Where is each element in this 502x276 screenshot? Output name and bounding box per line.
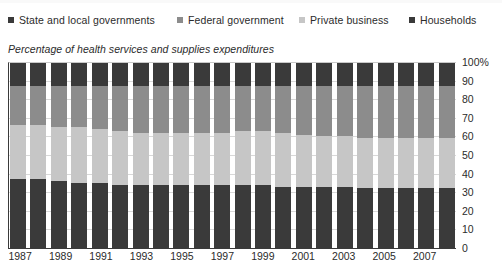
bar-segment-households — [112, 185, 128, 248]
bar-1990[interactable] — [71, 62, 87, 248]
bar-segment-private-business — [153, 133, 169, 185]
bar-1988[interactable] — [30, 62, 46, 248]
x-axis-line — [8, 248, 456, 249]
bar-1989[interactable] — [51, 62, 67, 248]
bar-segment-state-and-local-governments — [357, 62, 373, 86]
y-axis-tick-label: 100% — [462, 56, 489, 68]
y-axis-tick-label: 0 — [462, 242, 468, 254]
bar-segment-federal-government — [337, 86, 353, 136]
chart-legend: State and local governments Federal gove… — [0, 10, 502, 30]
bar-segment-state-and-local-governments — [153, 62, 169, 86]
bar-segment-private-business — [439, 138, 455, 188]
bar-segment-households — [275, 187, 291, 248]
bar-segment-private-business — [316, 136, 332, 186]
x-axis-tick-label-1995: 1995 — [170, 250, 193, 262]
bar-segment-state-and-local-governments — [194, 62, 210, 86]
square-marker-icon — [299, 17, 305, 23]
bar-segment-households — [255, 185, 271, 248]
x-axis-tick-label-2005: 2005 — [373, 250, 396, 262]
x-axis-tick-label-1997: 1997 — [211, 250, 234, 262]
bar-segment-federal-government — [316, 86, 332, 136]
bar-segment-federal-government — [275, 86, 291, 133]
bar-2007[interactable] — [418, 62, 434, 248]
bar-segment-state-and-local-governments — [418, 62, 434, 86]
bar-2001[interactable] — [296, 62, 312, 248]
bar-segment-federal-government — [418, 86, 434, 138]
bar-segment-private-business — [235, 131, 251, 185]
legend-item-label: Households — [420, 10, 476, 30]
bar-segment-households — [357, 188, 373, 248]
legend-item-private-business[interactable]: Private business — [299, 10, 389, 30]
bar-1991[interactable] — [92, 62, 108, 248]
bar-segment-private-business — [194, 133, 210, 185]
x-axis: 1987198919911993199519971999200120032005… — [8, 250, 456, 272]
bar-segment-households — [92, 183, 108, 248]
bar-segment-private-business — [214, 133, 230, 185]
bar-segment-state-and-local-governments — [92, 62, 108, 86]
y-axis-tick-label: 50 — [462, 149, 474, 161]
bar-segment-households — [173, 185, 189, 248]
bar-segment-private-business — [133, 133, 149, 185]
legend-item-federal-government[interactable]: Federal government — [177, 10, 284, 30]
bar-segment-federal-government — [112, 86, 128, 131]
bar-2005[interactable] — [378, 62, 394, 248]
bar-1995[interactable] — [173, 62, 189, 248]
bar-segment-private-business — [418, 138, 434, 188]
bar-segment-federal-government — [92, 86, 108, 129]
bar-1992[interactable] — [112, 62, 128, 248]
bar-segment-private-business — [30, 125, 46, 179]
y-axis: 0102030405060708090100% — [458, 62, 502, 248]
bar-1996[interactable] — [194, 62, 210, 248]
bar-segment-state-and-local-governments — [30, 62, 46, 86]
bar-2004[interactable] — [357, 62, 373, 248]
bar-segment-federal-government — [296, 86, 312, 134]
bar-segment-households — [30, 179, 46, 248]
bar-segment-private-business — [398, 138, 414, 188]
bar-1993[interactable] — [133, 62, 149, 248]
bar-segment-households — [398, 188, 414, 248]
bar-segment-federal-government — [133, 86, 149, 133]
bar-segment-federal-government — [398, 86, 414, 138]
bar-1987[interactable] — [10, 62, 26, 248]
x-axis-tick-label-1999: 1999 — [251, 250, 274, 262]
bar-segment-federal-government — [30, 86, 46, 125]
bar-2003[interactable] — [337, 62, 353, 248]
bar-1998[interactable] — [235, 62, 251, 248]
bar-segment-federal-government — [255, 86, 271, 131]
bar-segment-households — [51, 181, 67, 248]
bar-segment-private-business — [337, 136, 353, 186]
bar-2008[interactable] — [439, 62, 455, 248]
cropped-title-strip — [0, 0, 502, 3]
square-marker-icon — [409, 17, 415, 23]
bar-2000[interactable] — [275, 62, 291, 248]
bar-2002[interactable] — [316, 62, 332, 248]
y-axis-tick-label: 60 — [462, 130, 474, 142]
legend-item-state-and-local-governments[interactable]: State and local governments — [8, 10, 155, 30]
bar-segment-households — [194, 185, 210, 248]
chart-subtitle: Percentage of health services and suppli… — [8, 43, 274, 55]
bar-segment-private-business — [71, 127, 87, 183]
plot-area — [8, 62, 456, 248]
legend-item-households[interactable]: Households — [409, 10, 476, 30]
bar-segment-federal-government — [235, 86, 251, 131]
bar-segment-state-and-local-governments — [337, 62, 353, 86]
bar-2006[interactable] — [398, 62, 414, 248]
bar-segment-households — [235, 185, 251, 248]
bar-1994[interactable] — [153, 62, 169, 248]
bar-segment-households — [133, 185, 149, 248]
y-axis-tick-label: 40 — [462, 168, 474, 180]
bar-segment-state-and-local-governments — [439, 62, 455, 86]
x-axis-tick-label-2007: 2007 — [413, 250, 436, 262]
bar-segment-state-and-local-governments — [214, 62, 230, 86]
bar-1997[interactable] — [214, 62, 230, 248]
bar-1999[interactable] — [255, 62, 271, 248]
x-axis-tick-label-1991: 1991 — [89, 250, 112, 262]
bar-segment-federal-government — [439, 86, 455, 138]
legend-item-label: State and local governments — [19, 10, 155, 30]
x-axis-tick-label-1993: 1993 — [130, 250, 153, 262]
bar-segment-households — [439, 188, 455, 248]
x-axis-tick-label-2003: 2003 — [332, 250, 355, 262]
bar-segment-households — [10, 179, 26, 248]
bar-segment-private-business — [112, 131, 128, 185]
y-axis-tick-label: 70 — [462, 112, 474, 124]
